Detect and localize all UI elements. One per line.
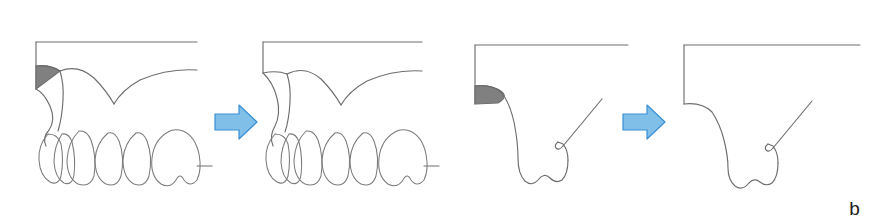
tooth-1	[266, 134, 290, 183]
root-lingual-contour	[555, 99, 602, 160]
defect-shading-wedge	[475, 86, 504, 104]
panel-frontal-view-before	[20, 0, 220, 224]
teeth-row	[266, 130, 427, 186]
tooth-4	[95, 133, 123, 185]
arrow-right-icon	[623, 105, 665, 139]
tooth-6-molar	[152, 130, 200, 186]
root-outline-left	[263, 73, 290, 146]
bone-outline	[263, 42, 422, 73]
figure-label: b	[849, 199, 860, 218]
transition-arrow-frontal	[212, 102, 260, 142]
root-lingual-contour	[765, 101, 812, 163]
panel-frontal-view-after	[255, 0, 455, 224]
tooth-5	[123, 133, 151, 185]
tooth-4	[322, 133, 350, 185]
teeth-row	[39, 130, 200, 186]
tooth-6-molar	[379, 130, 427, 186]
tooth-1	[39, 134, 63, 183]
bone-outline	[36, 42, 197, 89]
figure-panel-b: b	[0, 0, 874, 224]
arrow-right-icon	[215, 105, 257, 139]
gingival-contour	[263, 70, 422, 105]
panel-cross-section-view-after	[670, 0, 874, 224]
tooth-5	[350, 133, 378, 185]
bone-outline	[684, 45, 860, 104]
transition-arrow-cross-section	[620, 102, 668, 142]
root-buccal-contour	[684, 104, 778, 188]
